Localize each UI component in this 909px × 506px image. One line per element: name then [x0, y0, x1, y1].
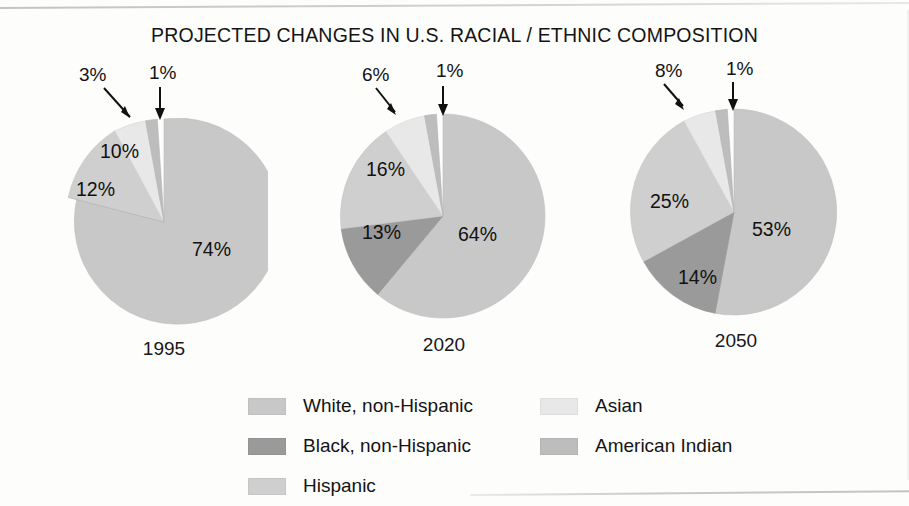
pie-2020-leader-lines: [340, 58, 560, 138]
legend-label-asian: Asian: [595, 395, 643, 417]
swatch-hispanic: [248, 478, 286, 495]
legend-column-right: Asian American Indian: [540, 386, 732, 466]
legend-item-american-indian[interactable]: American Indian: [540, 426, 732, 466]
legend-label-hispanic: Hispanic: [303, 475, 376, 497]
page-rule-bottom: [470, 490, 909, 496]
pie-chart-2050: 53% 14% 25%: [630, 108, 838, 316]
pie-2020-label-hispanic: 16%: [366, 158, 405, 181]
pie-chart-1995: 74% 12% 10%: [60, 118, 268, 326]
pie-chart-2020: 64% 13% 16%: [340, 113, 546, 319]
pie-1995-svg: [60, 118, 268, 326]
pie-2050-label-white: 53%: [752, 218, 791, 241]
pie-2020-year-label: 2020: [384, 334, 504, 356]
pie-2050-leader-lines: [630, 56, 850, 136]
pie-2020-label-white: 64%: [458, 223, 497, 246]
swatch-black-non-hispanic: [248, 438, 286, 455]
legend-label-white-non-hispanic: White, non-Hispanic: [303, 395, 473, 417]
figure-canvas: PROJECTED CHANGES IN U.S. RACIAL / ETHNI…: [0, 0, 909, 506]
page-title: PROJECTED CHANGES IN U.S. RACIAL / ETHNI…: [0, 24, 909, 47]
swatch-white-non-hispanic: [248, 398, 286, 415]
swatch-american-indian: [540, 438, 578, 455]
pie-2020-label-black: 13%: [362, 221, 401, 244]
pie-1995-label-hispanic: 10%: [100, 140, 139, 163]
pie-2050-year-label: 2050: [676, 330, 796, 352]
pie-1995-leader-lines: [60, 60, 280, 140]
pie-1995-label-black: 12%: [76, 178, 115, 201]
pie-1995-year-label: 1995: [104, 338, 224, 360]
legend-item-black-non-hispanic[interactable]: Black, non-Hispanic: [248, 426, 473, 466]
swatch-asian: [540, 398, 578, 415]
legend-item-asian[interactable]: Asian: [540, 386, 732, 426]
pie-1995-label-white: 74%: [192, 238, 231, 261]
pie-2050-label-hispanic: 25%: [650, 190, 689, 213]
legend-item-hispanic[interactable]: Hispanic: [248, 466, 473, 506]
legend-label-american-indian: American Indian: [595, 435, 732, 457]
legend-label-black-non-hispanic: Black, non-Hispanic: [303, 435, 471, 457]
legend-item-white-non-hispanic[interactable]: White, non-Hispanic: [248, 386, 473, 426]
pie-2050-label-black: 14%: [678, 266, 717, 289]
page-rule-top: [0, 2, 909, 9]
pie-2020-svg: [340, 113, 546, 319]
legend-column-left: White, non-Hispanic Black, non-Hispanic …: [248, 386, 473, 506]
